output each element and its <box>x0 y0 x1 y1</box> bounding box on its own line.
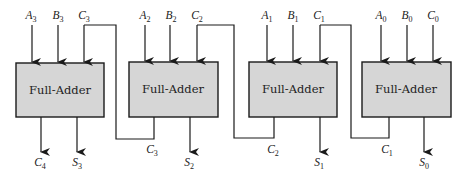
input-label-a3: A3 <box>24 9 36 24</box>
input-label-b2: B2 <box>165 9 176 24</box>
input-label-a0: A0 <box>374 9 386 24</box>
input-label-b0: B0 <box>401 9 412 24</box>
output-label-s3: S3 <box>72 156 82 171</box>
ripple-carry-adder-diagram: Full-Adder A3 B3 C3 C4 S3 Full-Adder A2 … <box>0 0 463 176</box>
output-label-s0: S0 <box>419 156 429 171</box>
full-adder-1: Full-Adder A1 B1 C1 C2 S1 <box>249 9 337 171</box>
block-label: Full-Adder <box>142 82 204 96</box>
input-label-c1: C1 <box>313 9 325 24</box>
block-label: Full-Adder <box>262 82 324 96</box>
block-label: Full-Adder <box>29 83 91 97</box>
output-label-c1: C1 <box>381 143 393 158</box>
output-label-c3: C3 <box>146 143 158 158</box>
full-adder-0: Full-Adder A0 B0 C0 C1 S0 <box>362 9 451 171</box>
output-label-s2: S2 <box>184 156 194 171</box>
output-label-c4: C4 <box>34 156 46 171</box>
output-label-s1: S1 <box>314 156 324 171</box>
input-label-b1: B1 <box>287 9 298 24</box>
full-adder-3: Full-Adder A3 B3 C3 C4 S3 <box>16 9 104 171</box>
block-label: Full-Adder <box>375 82 437 96</box>
input-label-b3: B3 <box>52 9 63 24</box>
full-adder-2: Full-Adder A2 B2 C2 C3 S2 <box>129 9 218 171</box>
input-label-a1: A1 <box>260 9 272 24</box>
input-label-c2: C2 <box>191 9 203 24</box>
output-label-c2: C2 <box>267 143 279 158</box>
input-label-c0: C0 <box>427 9 439 24</box>
input-label-a2: A2 <box>138 9 150 24</box>
input-label-c3: C3 <box>78 9 90 24</box>
